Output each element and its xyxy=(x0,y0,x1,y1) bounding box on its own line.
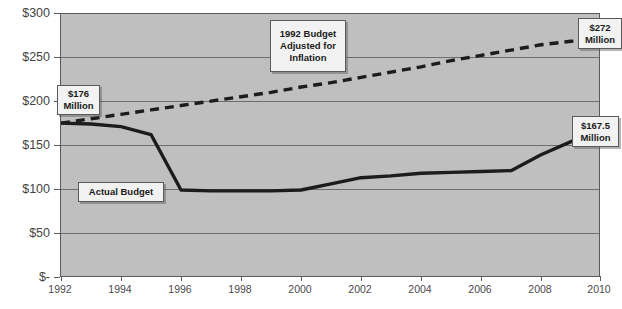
annotation-272-million: $272 Million xyxy=(578,18,622,49)
x-axis-tick-1994 xyxy=(121,276,122,281)
annotation-actual-budget: Actual Budget xyxy=(78,182,164,202)
x-axis-label-2004: 2004 xyxy=(400,284,440,295)
x-axis-label-2010: 2010 xyxy=(579,284,619,295)
x-axis-tick-2000 xyxy=(301,276,302,281)
annotation-inflation-adjusted: 1992 Budget Adjusted for Inflation xyxy=(270,20,346,72)
x-axis-label-1996: 1996 xyxy=(160,284,200,295)
y-axis-label-250: $250 xyxy=(0,51,50,63)
y-axis-label-150: $150 xyxy=(0,139,50,151)
annotation-167-5-million: $167.5 Million xyxy=(572,116,619,147)
y-axis-label-200: $200 xyxy=(0,95,50,107)
annotation-inflation-line-1: 1992 Budget xyxy=(280,28,337,40)
x-axis-label-2002: 2002 xyxy=(340,284,380,295)
y-axis-tick-0 xyxy=(54,277,60,278)
x-axis-label-2008: 2008 xyxy=(520,284,560,295)
chart-title xyxy=(0,0,622,10)
annotation-167-5-line-2: Million xyxy=(580,132,610,144)
x-axis-tick-2006 xyxy=(481,276,482,281)
annotation-inflation-line-3: Inflation xyxy=(290,52,327,64)
y-axis-label-300: $300 xyxy=(0,7,50,19)
annotation-176-line-1: $176 xyxy=(68,88,89,100)
x-axis-tick-2004 xyxy=(421,276,422,281)
annotation-inflation-line-2: Adjusted for xyxy=(280,40,336,52)
x-axis-tick-2002 xyxy=(361,276,362,281)
x-axis-label-1994: 1994 xyxy=(100,284,140,295)
x-axis-tick-1998 xyxy=(241,276,242,281)
y-axis-label-50: $50 xyxy=(0,227,50,239)
y-axis: $300 $250 $200 $150 $100 $50 $- xyxy=(0,0,60,309)
series-line-actual-budget xyxy=(61,123,601,191)
x-axis-label-2006: 2006 xyxy=(460,284,500,295)
annotation-272-line-2: Million xyxy=(585,34,615,46)
x-axis-label-1992: 1992 xyxy=(40,284,80,295)
x-axis-tick-2008 xyxy=(541,276,542,281)
x-axis-tick-1992 xyxy=(61,276,62,281)
annotation-176-million: $176 Million xyxy=(57,85,100,115)
annotation-actual-budget-label: Actual Budget xyxy=(89,186,153,198)
y-axis-label-0: $- xyxy=(0,271,50,283)
x-axis-tick-2010 xyxy=(600,276,601,281)
x-axis-tick-1996 xyxy=(181,276,182,281)
x-axis-label-1998: 1998 xyxy=(220,284,260,295)
annotation-167-5-line-1: $167.5 xyxy=(581,120,610,132)
x-axis-label-2000: 2000 xyxy=(280,284,320,295)
annotation-272-line-1: $272 xyxy=(589,22,610,34)
annotation-176-line-2: Million xyxy=(63,100,93,112)
budget-line-chart: $300 $250 $200 $150 $100 $50 $- xyxy=(0,0,622,309)
y-axis-label-100: $100 xyxy=(0,183,50,195)
